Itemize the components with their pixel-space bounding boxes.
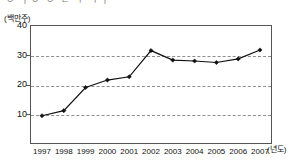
x-tick-label-2001: 2001: [120, 148, 138, 156]
x-tick-label-2005: 2005: [207, 148, 225, 156]
x-axis-unit-label: (년도): [267, 146, 286, 154]
x-tick-label-2006: 2006: [229, 148, 247, 156]
data-series-line: [30, 25, 272, 144]
x-tick-label-1998: 1998: [55, 148, 73, 156]
x-tick-label-1997: 1997: [33, 148, 51, 156]
data-point-marker: [214, 60, 218, 64]
x-tick-label-2003: 2003: [164, 148, 182, 156]
data-point-marker: [171, 58, 175, 62]
data-point-marker: [193, 59, 197, 63]
x-tick-label-2000: 2000: [98, 148, 116, 156]
data-point-marker: [258, 48, 262, 52]
data-point-marker: [40, 114, 44, 118]
line-chart: 40 30 20 10 1997199819992000200120022003…: [0, 0, 293, 166]
data-point-marker: [236, 57, 240, 61]
x-tick-label-1999: 1999: [77, 148, 95, 156]
x-tick-label-2002: 2002: [142, 148, 160, 156]
x-axis: 1997199819992000200120022003200420052006…: [0, 146, 293, 166]
y-tick-label-40: 40: [17, 21, 27, 30]
x-tick-label-2004: 2004: [186, 148, 204, 156]
y-axis: 40 30 20 10: [0, 0, 30, 166]
data-point-marker: [105, 78, 109, 82]
